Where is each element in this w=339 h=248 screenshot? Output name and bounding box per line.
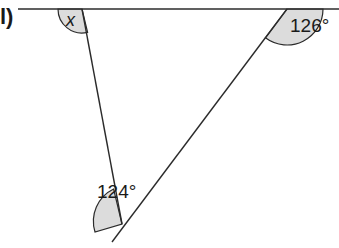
- angle-x-label: x: [65, 10, 76, 30]
- angle-126-label: 126°: [290, 15, 329, 36]
- triangle-angles-diagram: x 126° 124°: [0, 0, 339, 248]
- angle-124-label: 124°: [97, 181, 136, 202]
- right-transversal: [112, 9, 287, 242]
